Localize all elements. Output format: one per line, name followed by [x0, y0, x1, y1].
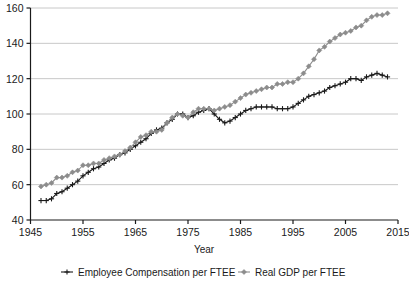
x-tick-label: 2005 — [334, 226, 358, 238]
chart-container: 406080100120140160 194519551965197519851… — [0, 0, 409, 287]
y-tick-label: 120 — [6, 73, 24, 85]
legend-item-employee-compensation[interactable]: Employee Compensation per FTEE — [61, 267, 236, 278]
x-tick-label: 1945 — [19, 226, 43, 238]
legend-label: Employee Compensation per FTEE — [78, 267, 236, 278]
x-tick-label: 1985 — [229, 226, 253, 238]
y-tick-label: 100 — [6, 108, 24, 120]
y-tick-label: 80 — [12, 143, 24, 155]
chart-legend: Employee Compensation per FTEEReal GDP p… — [61, 267, 346, 278]
y-tick-label: 160 — [6, 2, 24, 14]
y-tick-label: 40 — [12, 214, 24, 226]
legend-label: Real GDP per FTEE — [255, 267, 346, 278]
x-tick-label: 1965 — [124, 226, 148, 238]
y-tick-label: 60 — [12, 179, 24, 191]
x-tick-label: 1955 — [71, 226, 95, 238]
x-axis-title: Year — [194, 244, 215, 255]
legend-item-real-gdp[interactable]: Real GDP per FTEE — [238, 267, 346, 278]
x-tick-label: 2015 — [386, 226, 409, 238]
x-tick-label: 1995 — [281, 226, 305, 238]
x-tick-label: 1975 — [176, 226, 200, 238]
economic-index-line-chart: 406080100120140160 194519551965197519851… — [0, 0, 409, 287]
y-tick-label: 140 — [6, 37, 24, 49]
